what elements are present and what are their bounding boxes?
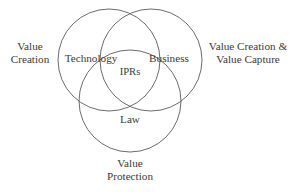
- venn-diagram: Technology Business Law IPRs Value Creat…: [0, 0, 298, 192]
- annotation-right-line-1: Value Creation &: [200, 40, 296, 53]
- annotation-bottom-line-1: Value: [88, 157, 172, 170]
- annotation-left-value-creation: Value Creation: [2, 40, 58, 66]
- annotation-left-line-2: Creation: [2, 53, 58, 66]
- annotation-right-value-creation-capture: Value Creation & Value Capture: [200, 40, 296, 66]
- annotation-bottom-value-protection: Value Protection: [88, 157, 172, 183]
- set-label-technology: Technology: [57, 52, 125, 65]
- annotation-bottom-line-2: Protection: [88, 170, 172, 183]
- intersection-label-iprs: IPRs: [105, 66, 155, 79]
- annotation-left-line-1: Value: [2, 40, 58, 53]
- set-label-business: Business: [140, 52, 198, 65]
- set-label-law: Law: [101, 113, 159, 126]
- annotation-right-line-2: Value Capture: [200, 53, 296, 66]
